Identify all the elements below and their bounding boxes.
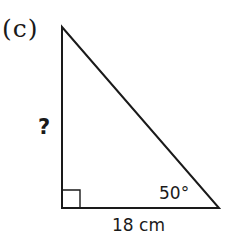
triangle-outline — [62, 27, 219, 208]
angle-label: 50° — [159, 185, 189, 202]
right-angle-marker-icon — [62, 190, 80, 208]
base-length-label: 18 cm — [112, 217, 165, 234]
right-triangle-drawing — [0, 0, 233, 250]
vertical-side-label: ? — [38, 117, 50, 138]
